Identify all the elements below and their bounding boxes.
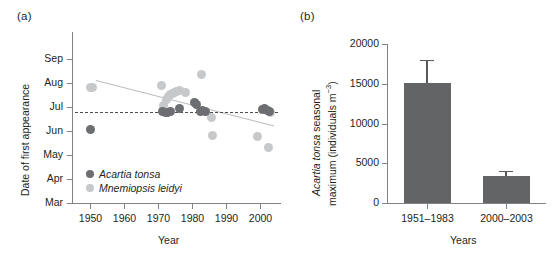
panel-b-bar [483,176,530,203]
panel-a-point-mnemiopsis [208,131,217,140]
panel-b-data-layer [288,0,558,255]
panel-b-error-bar-cap [420,60,434,61]
panel-a-point-acartia [86,125,95,134]
legend-item-mnemiopsis: Mnemiopsis leidyi [86,180,182,194]
legend-label-acartia: Acartia tonsa [99,168,160,180]
panel-a-legend: Acartia tonsa Mnemiopsis leidyi [86,166,182,194]
legend-label-mnemiopsis: Mnemiopsis leidyi [99,182,182,194]
panel-b-bar [404,83,451,203]
panel-b-bar-chart: (b) Acartia tonsa seasonal maximum (indi… [288,0,558,255]
panel-a-point-acartia [166,107,175,116]
panel-a-point-mnemiopsis [253,132,262,141]
legend-item-acartia: Acartia tonsa [86,166,182,180]
panel-a-data-layer [0,0,288,255]
panel-a-point-mnemiopsis [181,88,190,97]
panel-a-point-mnemiopsis [197,70,206,79]
panel-a-point-mnemiopsis [264,143,273,152]
panel-a-scatter: (a) Date of first appearance Sep Aug Jul… [0,0,288,255]
panel-b-error-bar-cap [499,171,513,172]
legend-marker-mnemiopsis-icon [86,184,94,192]
panel-a-plot-area: Sep Aug Jul Jun May Apr Mar 1950 1960 19… [0,0,288,255]
panel-a-point-mnemiopsis [88,83,97,92]
figure-container: (a) Date of first appearance Sep Aug Jul… [0,0,558,255]
panel-a-point-mnemiopsis [157,81,166,90]
panel-b-error-bar [426,60,427,83]
panel-b-plot-area: 20000 15000 10000 5000 0 1951–1983 2000–… [288,0,558,255]
legend-marker-acartia-icon [86,170,94,178]
